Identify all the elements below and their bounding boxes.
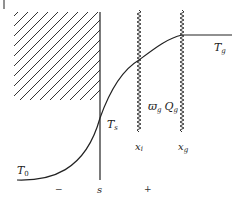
wavy-boundary-xi — [137, 10, 141, 132]
label-ts: Ts — [107, 118, 118, 132]
label-plus: + — [144, 184, 152, 194]
label-xi: xi — [135, 141, 143, 153]
label-minus: − — [55, 184, 63, 194]
label-xg: xg — [178, 141, 189, 154]
label-surface: s — [97, 184, 102, 195]
diagram-canvas: Tg Ts T0 ϖgQg xi xg − s + — [0, 0, 240, 198]
hatched-solid-region — [0, 12, 178, 100]
wavy-boundary-xg — [180, 10, 184, 132]
label-t0: T0 — [17, 164, 29, 178]
label-tg: Tg — [214, 41, 226, 55]
label-omega-q: ϖgQg — [148, 100, 179, 114]
temperature-curve — [17, 35, 232, 180]
